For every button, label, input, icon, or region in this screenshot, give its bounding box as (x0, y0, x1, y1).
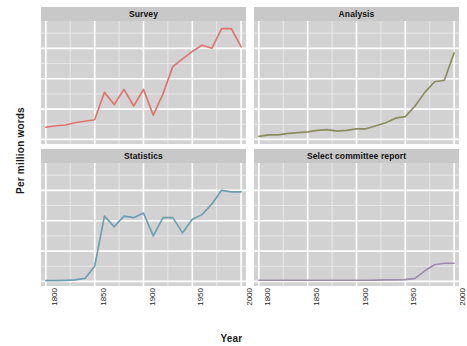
x-tick-label: 1850 (312, 288, 321, 306)
facet-strip-statistics: Statistics (41, 149, 246, 163)
x-tick-label: 1950 (409, 288, 418, 306)
facet-panel-grid: Survey 0204060 Analysis Statistics 02040… (41, 7, 459, 285)
plot-svg-statistics (41, 163, 246, 286)
plot-area-survey: 0204060 (41, 21, 246, 144)
facet-strip-select-committee-report: Select committee report (254, 149, 459, 163)
x-tick-label: 2000 (458, 288, 467, 306)
x-tick-label: 1800 (50, 288, 59, 306)
x-ticks-left-column: 18001850190019502000 (41, 288, 246, 328)
facet-panel-analysis: Analysis (254, 7, 459, 144)
facet-strip-analysis: Analysis (254, 7, 459, 21)
x-axis-tick-labels: 18001850190019502000 1800185019001950200… (41, 288, 459, 328)
x-tick-label: 1850 (99, 288, 108, 306)
facet-strip-survey: Survey (41, 7, 246, 21)
facet-strip-label: Analysis (339, 10, 375, 19)
x-tick-label: 1800 (263, 288, 272, 306)
x-tick-label: 1950 (196, 288, 205, 306)
facet-strip-label: Select committee report (307, 152, 406, 161)
plot-area-statistics: 0204060 (41, 163, 246, 286)
facet-panel-statistics: Statistics 0204060 (41, 149, 246, 286)
facet-panel-survey: Survey 0204060 (41, 7, 246, 144)
plot-svg-select-committee-report (254, 163, 459, 286)
x-tick-label: 1900 (148, 288, 157, 306)
x-tick-label: 1900 (361, 288, 370, 306)
plot-area-select-committee-report (254, 163, 459, 286)
facet-strip-label: Statistics (124, 152, 163, 161)
plot-svg-analysis (254, 21, 459, 144)
x-tick-label: 2000 (245, 288, 254, 306)
x-ticks-right-column: 18001850190019502000 (254, 288, 459, 328)
y-axis-title: Per million words (15, 71, 26, 231)
x-axis-title: Year (0, 333, 463, 344)
facet-strip-label: Survey (129, 10, 158, 19)
plot-area-analysis (254, 21, 459, 144)
plot-svg-survey (41, 21, 246, 144)
facet-panel-select-committee-report: Select committee report (254, 149, 459, 286)
